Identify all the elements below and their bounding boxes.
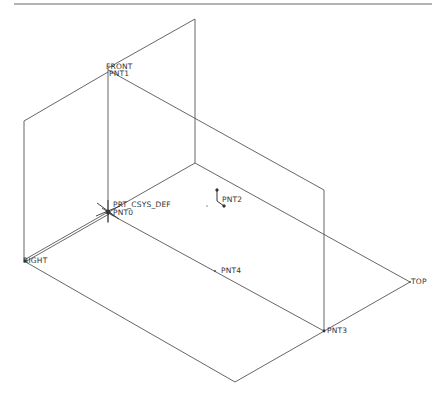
pnt3-icon[interactable] (323, 330, 326, 333)
pnt4-label[interactable]: PNT4 (221, 267, 241, 275)
pnt0-label[interactable]: PNT0 (113, 209, 133, 217)
right-plane-label[interactable]: RIGHT (23, 257, 47, 265)
pnt1-label[interactable]: PNT1 (109, 70, 129, 78)
pnt3-label[interactable]: PNT3 (327, 327, 347, 335)
datum-plane-right[interactable] (24, 72, 109, 262)
top-plane-label[interactable]: TOP (411, 278, 427, 286)
pnt2-label[interactable]: PNT2 (222, 196, 242, 204)
pnt4-icon[interactable] (214, 270, 216, 272)
